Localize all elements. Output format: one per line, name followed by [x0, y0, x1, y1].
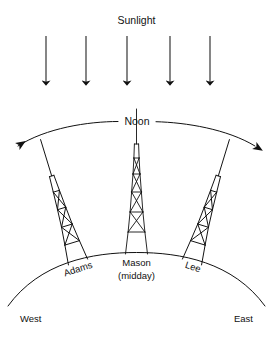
- site-label-adams: Adams: [62, 259, 94, 279]
- sun-position-towers-diagram: Sunlight Noon: [0, 0, 273, 345]
- noon-arc-right: [156, 122, 255, 146]
- site-label-mason: Mason: [122, 257, 151, 268]
- noon-label: Noon: [124, 115, 149, 127]
- sunlight-label: Sunlight: [118, 14, 156, 26]
- sunlight-rays-group: [46, 36, 210, 82]
- figure-root: Sunlight Noon: [0, 0, 273, 345]
- tower-mason: [126, 109, 148, 254]
- noon-arc-left: [18, 122, 118, 147]
- site-sublabel-mason: (midday): [118, 270, 155, 281]
- tower-adams: [31, 137, 88, 265]
- compass-label-east: East: [234, 313, 253, 324]
- compass-label-west: West: [20, 313, 42, 324]
- tower-lee: [182, 137, 239, 265]
